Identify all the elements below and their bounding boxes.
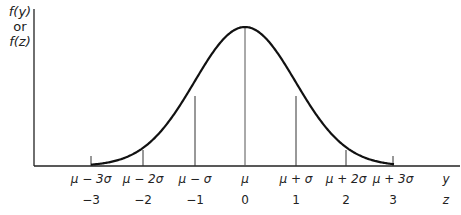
y-tick-label-mean: μ xyxy=(241,172,249,186)
z-tick-label-minus-1: −1 xyxy=(186,193,204,207)
y-tick-label-minus-3-sigma: μ − 3σ xyxy=(71,172,112,186)
z-tick-label-plus-3: 3 xyxy=(389,193,397,207)
z-tick-label-plus-1: 1 xyxy=(292,193,300,207)
y-tick-label-minus-2-sigma: μ − 2σ xyxy=(123,172,164,186)
z-tick-label-plus-2: 2 xyxy=(342,193,350,207)
y-tick-label-minus-1-sigma: μ − σ xyxy=(179,172,212,186)
y-axis-label-or: or xyxy=(6,19,34,34)
z-tick-label-minus-3: −3 xyxy=(82,193,100,207)
y-axis-name: y xyxy=(442,172,449,186)
z-tick-label-zero: 0 xyxy=(241,193,249,207)
y-tick-label-plus-3-sigma: μ + 3σ xyxy=(373,172,414,186)
y-axis-label-fy: f(y) xyxy=(6,4,34,19)
y-tick-label-plus-2-sigma: μ + 2σ xyxy=(326,172,367,186)
y-axis-label: f(y) or f(z) xyxy=(6,4,34,49)
normal-distribution-diagram: f(y) or f(z) μ − 3σ μ − 2σ μ − σ μ μ + σ… xyxy=(0,0,461,215)
bell-curve xyxy=(91,27,394,165)
z-tick-label-minus-2: −2 xyxy=(134,193,152,207)
y-axis-label-fz: f(z) xyxy=(6,34,34,49)
z-axis-name: z xyxy=(443,193,449,207)
y-tick-label-plus-1-sigma: μ + σ xyxy=(280,172,313,186)
